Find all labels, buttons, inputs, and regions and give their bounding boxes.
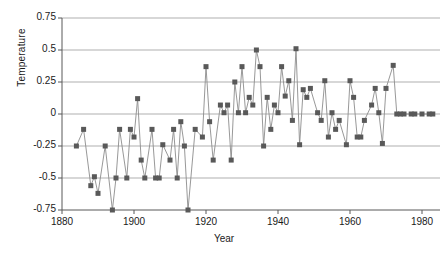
data-point-marker — [322, 78, 327, 83]
data-point-marker — [304, 95, 309, 100]
data-point-marker — [250, 103, 255, 108]
data-point-marker — [142, 176, 147, 181]
data-point-marker — [240, 64, 245, 69]
gridlines-group — [62, 18, 440, 210]
data-point-marker — [319, 118, 324, 123]
data-point-marker — [373, 86, 378, 91]
data-point-marker — [380, 141, 385, 146]
data-point-marker — [376, 110, 381, 115]
data-point-marker — [171, 127, 176, 132]
data-point-marker — [218, 103, 223, 108]
data-point-marker — [391, 63, 396, 68]
data-point-marker — [326, 135, 331, 140]
x-tick-label: 1980 — [397, 216, 447, 227]
data-point-marker — [229, 158, 234, 163]
data-point-marker — [258, 64, 263, 69]
y-tick-label: -0.5 — [8, 171, 56, 182]
data-point-marker — [254, 48, 259, 53]
data-point-marker — [135, 96, 140, 101]
data-point-marker — [88, 183, 93, 188]
data-point-marker — [150, 127, 155, 132]
data-point-marker — [168, 158, 173, 163]
data-point-marker — [193, 127, 198, 132]
data-point-marker — [344, 142, 349, 147]
y-tick-label: 0.25 — [8, 75, 56, 86]
data-point-marker — [247, 95, 252, 100]
data-point-marker — [117, 127, 122, 132]
data-point-marker — [186, 208, 191, 213]
data-point-marker — [178, 119, 183, 124]
y-tick-label: 0 — [8, 107, 56, 118]
data-point-marker — [211, 158, 216, 163]
data-point-marker — [369, 103, 374, 108]
data-point-marker — [265, 95, 270, 100]
data-point-marker — [182, 144, 187, 149]
data-point-marker — [114, 176, 119, 181]
data-point-marker — [81, 127, 86, 132]
data-point-marker — [384, 86, 389, 91]
data-point-marker — [132, 135, 137, 140]
data-point-marker — [430, 112, 435, 117]
data-point-marker — [272, 103, 277, 108]
data-point-marker — [124, 176, 129, 181]
data-point-marker — [268, 127, 273, 132]
data-point-marker — [204, 64, 209, 69]
data-point-marker — [283, 94, 288, 99]
data-point-marker — [348, 78, 353, 83]
axis-ticks-group — [58, 18, 422, 214]
data-point-marker — [207, 119, 212, 124]
data-point-marker — [128, 127, 133, 132]
x-axis-title: Year — [0, 233, 448, 244]
data-point-marker — [110, 208, 115, 213]
data-point-marker — [308, 86, 313, 91]
data-point-marker — [297, 142, 302, 147]
data-point-marker — [225, 103, 230, 108]
data-point-marker — [420, 112, 425, 117]
x-tick-label: 1940 — [253, 216, 303, 227]
data-point-marker — [402, 112, 407, 117]
data-point-marker — [276, 110, 281, 115]
data-point-marker — [92, 174, 97, 179]
data-point-marker — [286, 78, 291, 83]
data-point-marker — [261, 144, 266, 149]
y-tick-label: -0.25 — [8, 139, 56, 150]
x-tick-label: 1880 — [37, 216, 87, 227]
data-point-marker — [279, 64, 284, 69]
data-point-marker — [294, 46, 299, 51]
data-point-marker — [74, 144, 79, 149]
data-point-marker — [139, 158, 144, 163]
data-point-marker — [358, 135, 363, 140]
data-point-marker — [160, 142, 165, 147]
data-point-marker — [222, 110, 227, 115]
data-point-marker — [290, 118, 295, 123]
data-point-marker — [351, 95, 356, 100]
data-point-marker — [362, 118, 367, 123]
data-point-marker — [243, 110, 248, 115]
data-point-marker — [301, 87, 306, 92]
data-point-marker — [175, 176, 180, 181]
data-point-marker — [330, 110, 335, 115]
data-point-marker — [232, 80, 237, 85]
x-tick-label: 1960 — [325, 216, 375, 227]
data-point-marker — [236, 110, 241, 115]
data-point-marker — [96, 191, 101, 196]
y-tick-label: -0.75 — [8, 203, 56, 214]
data-point-marker — [157, 176, 162, 181]
data-point-marker — [315, 110, 320, 115]
y-tick-label: 0.5 — [8, 43, 56, 54]
temperature-line-chart: Temperature Year -0.75-0.5-0.2500.250.50… — [0, 0, 448, 255]
data-point-marker — [337, 118, 342, 123]
y-tick-label: 0.75 — [8, 11, 56, 22]
data-point-marker — [412, 112, 417, 117]
data-point-marker — [200, 135, 205, 140]
x-tick-label: 1920 — [181, 216, 231, 227]
data-point-marker — [103, 144, 108, 149]
data-point-marker — [333, 127, 338, 132]
x-tick-label: 1900 — [109, 216, 159, 227]
